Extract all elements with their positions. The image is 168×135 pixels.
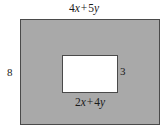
bottom-operator: +: [86, 96, 95, 108]
top-variable-2: y: [94, 2, 99, 14]
right-side-label: 3: [120, 66, 126, 77]
left-side-label: 8: [7, 67, 13, 78]
top-operator: +: [80, 2, 89, 14]
inner-rectangle: [62, 55, 118, 93]
bottom-variable-1: x: [81, 96, 86, 108]
top-variable-1: x: [75, 2, 80, 14]
bottom-variable-2: y: [100, 96, 105, 108]
bottom-side-label: 2x+4y: [41, 97, 139, 109]
geometry-figure: 4x+5y 2x+4y 8 3: [0, 0, 168, 135]
top-side-label: 4x+5y: [0, 3, 168, 15]
